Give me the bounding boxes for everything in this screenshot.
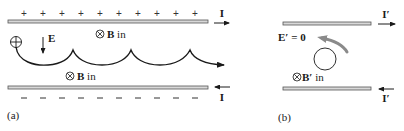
top-current-label: I′ xyxy=(382,8,389,20)
svg-text:+: + xyxy=(192,8,198,19)
svg-text:+: + xyxy=(116,8,122,19)
magnetic-field-lower: B in xyxy=(66,70,96,82)
top-plate xyxy=(8,20,208,23)
magnetic-field-prime: B′ in xyxy=(293,71,324,83)
svg-text:+: + xyxy=(173,8,179,19)
electric-field-label: E xyxy=(48,32,55,44)
magnetic-field-upper: B in xyxy=(96,28,126,40)
top-plate xyxy=(283,22,371,25)
svg-text:+: + xyxy=(21,8,27,19)
svg-text:B in: B in xyxy=(77,70,96,82)
panel-b: I′ E′ = 0 B′ in I′ (b) xyxy=(278,8,395,124)
bottom-plate xyxy=(283,87,371,90)
svg-text:+: + xyxy=(59,8,65,19)
svg-text:+: + xyxy=(154,8,160,19)
rotation-arrow-icon xyxy=(322,38,347,52)
svg-text:+: + xyxy=(135,8,141,19)
into-page-icon xyxy=(66,72,74,80)
svg-text:B′ in: B′ in xyxy=(302,71,324,83)
positive-charges: + + + + + + + + + + xyxy=(21,8,198,19)
cycloid-trajectory xyxy=(16,47,224,65)
into-page-icon xyxy=(293,73,301,81)
svg-text:B in: B in xyxy=(107,28,126,40)
into-page-icon xyxy=(96,30,104,38)
bottom-current-label: I′ xyxy=(382,92,389,104)
svg-text:+: + xyxy=(78,8,84,19)
panel-b-label: (b) xyxy=(278,111,291,124)
bottom-plate xyxy=(8,86,208,89)
top-current-label: I xyxy=(220,7,224,19)
panel-a: + + + + + + + + + + I E xyxy=(7,7,230,122)
circular-orbit xyxy=(314,48,336,70)
svg-text:+: + xyxy=(97,8,103,19)
panel-a-label: (a) xyxy=(7,109,20,122)
positive-charge-icon xyxy=(11,37,22,48)
bottom-current-label: I xyxy=(220,91,224,103)
velocity-selector-diagram: + + + + + + + + + + I E xyxy=(0,0,404,131)
svg-text:+: + xyxy=(40,8,46,19)
electric-field-label: E′ = 0 xyxy=(278,31,306,43)
